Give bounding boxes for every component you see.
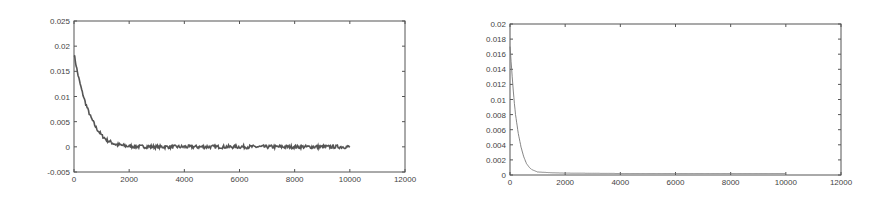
x-tick-label: 2000 [120,175,138,184]
x-tick-label: 4000 [175,175,193,184]
y-tick-label: 0.002 [486,156,507,165]
x-tick-label: 10000 [775,178,798,187]
y-tick-label: 0.02 [54,42,70,51]
y-tick-label: 0.012 [486,80,507,89]
y-tick-label: 0.01 [490,96,506,105]
y-tick-label: 0.014 [486,65,507,74]
y-tick-label: 0.025 [50,17,71,26]
y-tick-label: 0 [502,171,507,180]
plot-frame [510,24,841,175]
x-tick-label: 6000 [667,178,685,187]
y-tick-label: 0.016 [486,50,507,59]
y-tick-label: 0.01 [54,93,70,102]
right-chart: 02000400060008000100001200000.0020.0040.… [486,20,853,187]
x-tick-label: 12000 [830,178,853,187]
x-tick-label: 4000 [611,178,629,187]
x-tick-label: 8000 [722,178,740,187]
x-tick-label: 10000 [339,175,362,184]
x-tick-label: 6000 [231,175,249,184]
data-series-line [510,47,786,174]
x-tick-label: 0 [72,175,77,184]
y-tick-label: 0.018 [486,35,507,44]
plot-frame [74,21,405,172]
y-tick-label: 0.005 [50,118,71,127]
x-tick-label: 2000 [556,178,574,187]
y-tick-label: 0.006 [486,126,507,135]
left-chart: 020004000600080001000012000-0.00500.0050… [47,17,416,184]
y-tick-label: 0.008 [486,111,507,120]
y-tick-label: 0.02 [490,20,506,29]
y-tick-label: 0.004 [486,141,507,150]
data-series-line [74,56,350,149]
x-tick-label: 8000 [286,175,304,184]
y-tick-label: 0.015 [50,67,71,76]
x-tick-label: 12000 [394,175,417,184]
figure: 020004000600080001000012000-0.00500.0050… [0,0,887,197]
y-tick-label: 0 [66,143,71,152]
x-tick-label: 0 [508,178,513,187]
y-tick-label: -0.005 [47,168,70,177]
